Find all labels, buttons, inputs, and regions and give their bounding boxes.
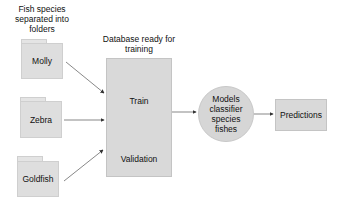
arrows-layer	[0, 0, 338, 208]
arrow-goldfish-to-validation	[64, 150, 103, 181]
arrow-molly-to-train	[66, 62, 104, 93]
